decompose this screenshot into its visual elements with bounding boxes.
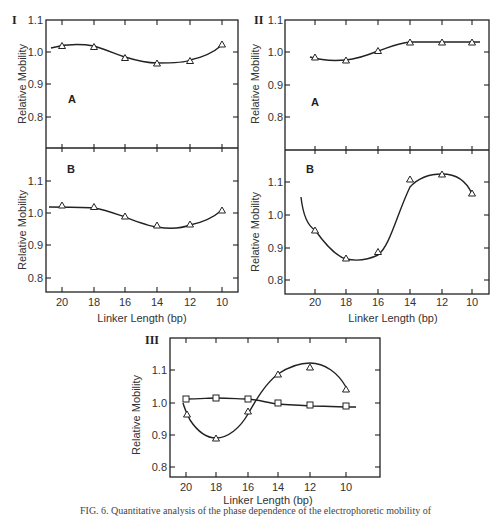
panel-I-xlabel: Linker Length (bp) <box>97 312 186 324</box>
panel-III-top-xticks <box>186 338 346 343</box>
figure-canvas: .ax{fill:none;stroke:#222;stroke-width:1… <box>0 0 502 520</box>
panel-III-yticks <box>170 370 380 467</box>
panel-I-xtick-labels: 20 18 16 14 12 10 <box>56 296 228 308</box>
svg-text:20: 20 <box>309 296 321 308</box>
svg-text:16: 16 <box>242 481 254 493</box>
svg-text:0.8: 0.8 <box>152 461 167 473</box>
panel-II-xtick-labels: 20 18 16 14 12 10 <box>309 296 478 308</box>
panel-III-xtick-labels: 20 18 16 14 12 10 <box>180 481 352 493</box>
svg-text:10: 10 <box>466 296 478 308</box>
svg-text:0.9: 0.9 <box>28 239 43 251</box>
svg-text:14: 14 <box>151 296 163 308</box>
svg-text:14: 14 <box>404 296 416 308</box>
svg-text:18: 18 <box>88 296 100 308</box>
panel-label-II: II <box>254 13 264 27</box>
panel-III-triangle-curve <box>183 363 346 438</box>
panel-IB-ytick-labels: 1.1 1.0 0.9 0.8 <box>28 175 43 284</box>
subpanel-label-IIA: A <box>311 96 319 108</box>
panel-IB-ylabel: Relative Mobility <box>16 189 28 270</box>
subpanel-label-IIB: B <box>306 163 314 175</box>
panel-IB-curve <box>49 207 222 228</box>
svg-text:0.9: 0.9 <box>268 79 283 91</box>
panel-IIB-ylabel: Relative Mobility <box>249 191 261 272</box>
panel-II-top-xticks <box>315 20 472 25</box>
svg-text:1.0: 1.0 <box>268 209 283 221</box>
panel-I-top-xticks <box>62 20 222 25</box>
svg-text:18: 18 <box>210 481 222 493</box>
svg-text:1.1: 1.1 <box>28 14 43 26</box>
subpanel-label-IB: B <box>67 163 75 175</box>
panel-II: II 1.1 1.0 0.9 0.8 Relative Mobili <box>249 13 489 324</box>
svg-text:0.8: 0.8 <box>268 111 283 123</box>
svg-text:10: 10 <box>216 296 228 308</box>
svg-text:0.9: 0.9 <box>268 242 283 254</box>
subpanel-label-IA: A <box>68 93 76 105</box>
svg-text:1.0: 1.0 <box>28 207 43 219</box>
svg-text:14: 14 <box>272 481 284 493</box>
svg-text:1.0: 1.0 <box>152 397 167 409</box>
panel-I: I 1.1 1.0 0.9 0.8 <box>12 13 238 324</box>
panel-III-ytick-labels: 1.1 1.0 0.9 0.8 <box>152 364 167 473</box>
panel-IIB-markers <box>312 171 476 261</box>
svg-text:0.9: 0.9 <box>152 429 167 441</box>
panel-III-square-curve <box>186 398 356 407</box>
svg-text:12: 12 <box>184 296 196 308</box>
panel-IB-yticks <box>46 181 238 278</box>
panel-III-bottom-xticks <box>186 472 346 477</box>
panel-IB-markers <box>59 202 226 228</box>
panel-IIA-curve <box>310 42 480 60</box>
svg-text:0.8: 0.8 <box>28 272 43 284</box>
panel-II-frame <box>285 20 489 294</box>
svg-text:10: 10 <box>340 481 352 493</box>
panel-IIA-ytick-labels: 1.1 1.0 0.9 0.8 <box>268 14 283 123</box>
panel-IA-ytick-labels: 1.1 1.0 0.9 0.8 <box>28 14 43 123</box>
svg-text:0.8: 0.8 <box>268 274 283 286</box>
panel-IIB-ytick-labels: 1.1 1.0 0.9 0.8 <box>268 176 283 286</box>
svg-text:1.1: 1.1 <box>268 176 283 188</box>
figure-caption: FIG. 6. Quantitative analysis of the pha… <box>80 505 440 516</box>
svg-text:1.1: 1.1 <box>152 364 167 376</box>
panel-label-III: III <box>145 333 159 347</box>
svg-text:0.9: 0.9 <box>28 78 43 90</box>
panel-II-bottom-xticks <box>315 289 472 294</box>
panel-IA-curve <box>51 45 222 63</box>
panel-IIB-curve <box>301 174 472 260</box>
svg-text:20: 20 <box>180 481 192 493</box>
panel-III: III 1.1 1.0 0.9 0.8 Relative Mobility <box>130 333 380 506</box>
panel-III-ylabel: Relative Mobility <box>130 374 142 455</box>
panel-II-xlabel: Linker Length (bp) <box>348 312 437 324</box>
panel-I-bottom-xticks <box>62 287 222 292</box>
svg-text:0.8: 0.8 <box>28 111 43 123</box>
svg-text:18: 18 <box>340 296 352 308</box>
panel-label-I: I <box>12 13 17 27</box>
panel-IA-ylabel: Relative Mobility <box>16 43 28 124</box>
svg-text:1.0: 1.0 <box>28 46 43 58</box>
svg-text:1.0: 1.0 <box>268 46 283 58</box>
svg-text:1.1: 1.1 <box>28 175 43 187</box>
svg-text:1.1: 1.1 <box>268 14 283 26</box>
panel-IIA-ylabel: Relative Mobility <box>249 43 261 124</box>
svg-text:12: 12 <box>304 481 316 493</box>
svg-text:16: 16 <box>372 296 384 308</box>
svg-text:12: 12 <box>436 296 448 308</box>
svg-text:16: 16 <box>119 296 131 308</box>
svg-text:20: 20 <box>56 296 68 308</box>
